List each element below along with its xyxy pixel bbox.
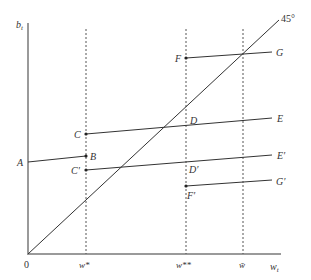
tick-w-bar: w̄ (239, 260, 245, 270)
point-C-dot (84, 132, 87, 135)
diagonal-45-label: 45° (281, 13, 295, 24)
label-D-prime: D′ (188, 164, 199, 175)
origin-label: 0 (24, 259, 29, 270)
point-Cp-dot (84, 168, 87, 171)
label-E-prime: E′ (276, 150, 286, 161)
point-F-dot (184, 56, 187, 59)
label-A: A (16, 157, 24, 168)
tick-w-double-star: w** (176, 260, 192, 270)
label-C-prime: C′ (71, 165, 81, 176)
label-G: G (276, 47, 283, 58)
label-B: B (90, 151, 96, 162)
segment-AB (28, 156, 86, 162)
segment-FpGp (186, 180, 272, 186)
diagonal-45-line (28, 20, 279, 254)
point-B-dot (84, 154, 87, 157)
label-E: E (276, 113, 283, 124)
y-axis-label: bt (16, 19, 24, 32)
label-G-prime: G′ (276, 176, 286, 187)
segment-CpEp (86, 155, 272, 170)
label-D: D (189, 115, 198, 126)
label-F-prime: F′ (186, 190, 196, 201)
tick-w-star: w* (79, 260, 90, 270)
diagram-canvas: bt wt 0 45° w* w** w̄ A B C D E F G C′ D… (0, 0, 311, 280)
segment-CE (86, 118, 272, 134)
label-F: F (174, 53, 182, 64)
label-C: C (74, 129, 81, 140)
segment-FG (186, 52, 272, 58)
x-axis-label: wt (270, 261, 280, 274)
point-Fp-dot (184, 184, 187, 187)
